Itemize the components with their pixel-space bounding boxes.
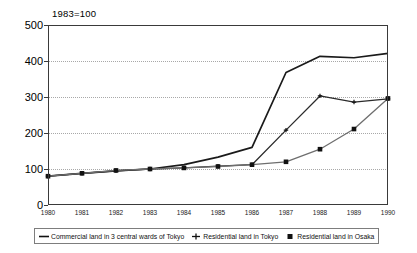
y-axis-tick-label: 200 (25, 127, 43, 139)
legend: Commercial land in 3 central wards of To… (34, 228, 379, 244)
chart-container: 1983=100 0100200300400500 19801981198219… (0, 0, 417, 253)
legend-item-label: Residential land in Tokyo (203, 233, 278, 240)
x-axis-tick-label: 1987 (279, 209, 293, 216)
legend-square-icon (285, 232, 295, 241)
y-axis-tick-label: 400 (25, 55, 43, 67)
x-axis-tick-label: 1983 (143, 209, 157, 216)
x-axis-tick-label: 1988 (313, 209, 327, 216)
x-axis-tick-label: 1985 (211, 209, 225, 216)
x-axis-tick-label: 1981 (75, 209, 89, 216)
legend-item[interactable]: Residential land in Tokyo (191, 232, 278, 241)
plot-frame (48, 25, 388, 205)
y-axis-tick-mark (44, 205, 48, 206)
legend-item[interactable]: Commercial land in 3 central wards of To… (39, 232, 184, 241)
legend-line-icon (39, 232, 49, 241)
plot-area: 0100200300400500 19801981198219831984198… (48, 25, 388, 205)
chart-title: 1983=100 (52, 8, 96, 19)
y-axis-tick-label: 500 (25, 19, 43, 31)
y-axis-tick-label: 300 (25, 91, 43, 103)
x-axis-tick-label: 1982 (109, 209, 123, 216)
y-axis-tick-label: 100 (25, 163, 43, 175)
legend-plus-icon (191, 232, 201, 241)
x-axis-tick-label: 1986 (245, 209, 259, 216)
legend-item-label: Commercial land in 3 central wards of To… (51, 233, 184, 240)
x-axis-tick-label: 1980 (41, 209, 55, 216)
x-axis-tick-label: 1984 (177, 209, 191, 216)
x-axis-tick-label: 1990 (381, 209, 395, 216)
x-axis-tick-label: 1989 (347, 209, 361, 216)
legend-item[interactable]: Residential land in Osaka (285, 232, 374, 241)
legend-item-label: Residential land in Osaka (297, 233, 374, 240)
